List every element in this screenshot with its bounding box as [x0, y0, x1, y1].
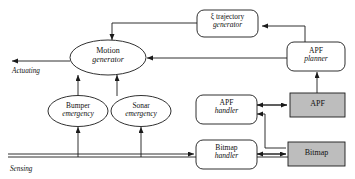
- edge-bitmap-to-apfhandler: [257, 114, 286, 148]
- node-bumper-emergency-shape: [48, 96, 108, 127]
- diagram-canvas: Motion generator ξ trajectory generator …: [0, 0, 355, 179]
- node-apf-planner-shape: [287, 42, 345, 71]
- node-apf-shape: [290, 93, 345, 117]
- diagram-vector-layer: [0, 0, 355, 179]
- sensing-label: Sensing: [10, 165, 32, 173]
- node-bitmap-shape: [288, 142, 345, 166]
- edge-trajectory-to-motion: [112, 23, 197, 40]
- actuating-label: Actuating: [12, 67, 40, 75]
- node-trajectory-generator-shape: [197, 10, 258, 37]
- node-apf-handler-shape: [196, 95, 257, 124]
- node-bitmap-handler-shape: [196, 140, 257, 169]
- node-motion-generator-shape: [70, 40, 146, 75]
- edge-apfplanner-to-trajectory: [262, 26, 305, 42]
- node-sonar-emergency-shape: [111, 96, 171, 127]
